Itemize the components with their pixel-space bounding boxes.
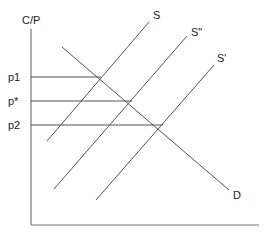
demand-label: D [233,189,241,201]
price-label-p2: p2 [8,119,20,131]
supply-curve-s-prime [96,65,214,200]
price-label-p-star: p* [8,95,19,107]
supply-curve-s [47,22,149,141]
price-label-p1: p1 [8,71,20,83]
supply-curve-s-double-prime [54,36,187,189]
y-axis-label: C/P [22,14,40,26]
supply-s-label: S [153,9,160,21]
supply-s-prime-label: S' [217,52,226,64]
demand-curve [62,47,229,190]
supply-s-double-prime-label: S" [191,26,202,38]
supply-demand-diagram: C/P p1 p* p2 D S S" S' [0,0,269,234]
